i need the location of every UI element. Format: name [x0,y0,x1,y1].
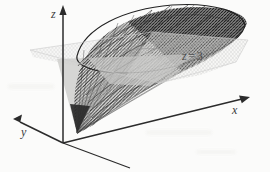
z-axis-label: z [51,8,56,20]
y-axis-label: y [21,126,26,138]
plane-equation-label: z=3 [182,49,203,64]
x-axis-label: x [232,104,237,116]
plane-equation-operator: = [187,49,196,63]
cone-plane-diagram [0,0,270,172]
plane-equation-value: 3 [197,49,204,63]
figure-container: z x y z=3 [0,0,270,172]
